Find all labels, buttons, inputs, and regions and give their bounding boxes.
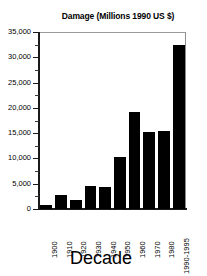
y-tick-label: 25,000	[0, 78, 31, 87]
bar	[129, 112, 141, 209]
y-tick-label: 0	[0, 204, 31, 213]
x-tick-label: 1990-1995	[182, 212, 191, 274]
bar	[55, 195, 67, 209]
bar	[40, 205, 52, 209]
y-tick-label: 5,000	[0, 179, 31, 188]
y-tick-label: 30,000	[0, 52, 31, 61]
bar	[158, 131, 170, 209]
bar-series	[39, 32, 186, 209]
y-tick-label: 20,000	[0, 103, 31, 112]
bar	[99, 187, 111, 209]
bar	[173, 45, 185, 209]
bar	[143, 132, 155, 209]
bar	[70, 200, 82, 209]
y-tick	[33, 209, 39, 210]
x-axis-title: Decade	[38, 248, 164, 269]
y-tick-label: 10,000	[0, 153, 31, 162]
chart-title: Damage (Millions 1990 US $)	[34, 11, 202, 21]
bar-chart: Damage (Millions 1990 US $) 05,00010,000…	[0, 0, 207, 276]
y-tick-label: 15,000	[0, 128, 31, 137]
y-tick-label: 35,000	[0, 27, 31, 36]
bar	[114, 157, 126, 209]
x-tick-label: 1980	[167, 212, 176, 258]
bar	[85, 186, 97, 209]
